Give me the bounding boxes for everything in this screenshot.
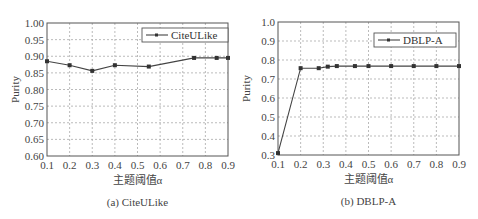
data-marker	[90, 69, 94, 73]
x-tick-label: 0.4	[339, 158, 353, 170]
x-tick-label: 0.5	[131, 159, 145, 171]
x-tick-label: 0.8	[199, 159, 213, 171]
legend-marker-icon	[155, 34, 158, 37]
data-marker	[367, 64, 371, 68]
x-tick-label: 0.5	[362, 158, 376, 170]
y-tick-label: 1.0	[261, 16, 275, 28]
y-tick-label: 0.4	[261, 130, 275, 142]
data-marker	[389, 64, 393, 68]
chart-dblp-a: 0.10.20.30.40.50.60.70.80.90.30.40.50.60…	[240, 16, 466, 208]
data-marker	[457, 64, 461, 68]
y-tick-label: 0.65	[25, 133, 45, 145]
x-tick-label: 0.9	[452, 158, 466, 170]
data-marker	[353, 64, 357, 68]
x-tick-label: 0.7	[176, 159, 190, 171]
chart-caption: (b) DBLP-A	[341, 195, 396, 208]
data-marker	[317, 66, 321, 70]
y-axis-label: Purity	[9, 76, 21, 103]
data-marker	[68, 63, 72, 67]
y-tick-label: 0.6	[261, 92, 275, 104]
legend-marker-icon	[387, 39, 390, 42]
data-marker	[326, 65, 330, 69]
legend-label: CiteULike	[171, 29, 218, 41]
x-tick-label: 0.4	[108, 159, 122, 171]
x-tick-label: 0.7	[407, 158, 421, 170]
data-marker	[215, 56, 219, 60]
x-tick-label: 0.6	[153, 159, 167, 171]
x-tick-label: 0.2	[294, 158, 308, 170]
data-marker	[412, 64, 416, 68]
data-marker	[192, 56, 196, 60]
data-marker	[335, 64, 339, 68]
y-tick-label: 0.9	[261, 35, 275, 47]
x-tick-label: 0.6	[384, 158, 398, 170]
data-marker	[226, 56, 230, 60]
data-marker	[299, 66, 303, 70]
y-tick-label: 0.70	[25, 117, 45, 129]
x-tick-label: 0.9	[221, 159, 235, 171]
y-tick-label: 0.75	[25, 100, 45, 112]
x-tick-label: 0.3	[85, 159, 99, 171]
data-marker	[113, 63, 117, 67]
y-axis-label: Purity	[240, 75, 252, 102]
y-tick-label: 0.60	[25, 150, 45, 162]
y-tick-label: 0.85	[25, 67, 45, 79]
x-tick-label: 0.2	[63, 159, 77, 171]
data-marker	[276, 151, 280, 155]
legend-label: DBLP-A	[403, 34, 443, 46]
x-tick-label: 0.8	[430, 158, 444, 170]
data-marker	[434, 64, 438, 68]
chart-canvas: 0.10.20.30.40.50.60.70.80.90.600.650.700…	[0, 0, 478, 219]
y-tick-label: 0.80	[25, 84, 45, 96]
data-marker	[147, 65, 151, 69]
data-marker	[45, 59, 49, 63]
x-axis-label: 主题阈值α	[344, 172, 394, 185]
chart-caption: (a) CiteULike	[107, 196, 169, 209]
y-tick-label: 0.90	[25, 50, 45, 62]
y-tick-label: 0.8	[261, 54, 275, 66]
chart-citeulike: 0.10.20.30.40.50.60.70.80.90.600.650.700…	[9, 17, 235, 209]
y-tick-label: 0.7	[261, 73, 275, 85]
y-tick-label: 0.3	[261, 149, 275, 161]
y-tick-label: 1.00	[25, 17, 45, 29]
y-tick-label: 0.5	[261, 111, 275, 123]
x-axis-label: 主题阈值α	[113, 173, 163, 186]
x-tick-label: 0.3	[316, 158, 330, 170]
y-tick-label: 0.95	[25, 34, 45, 46]
